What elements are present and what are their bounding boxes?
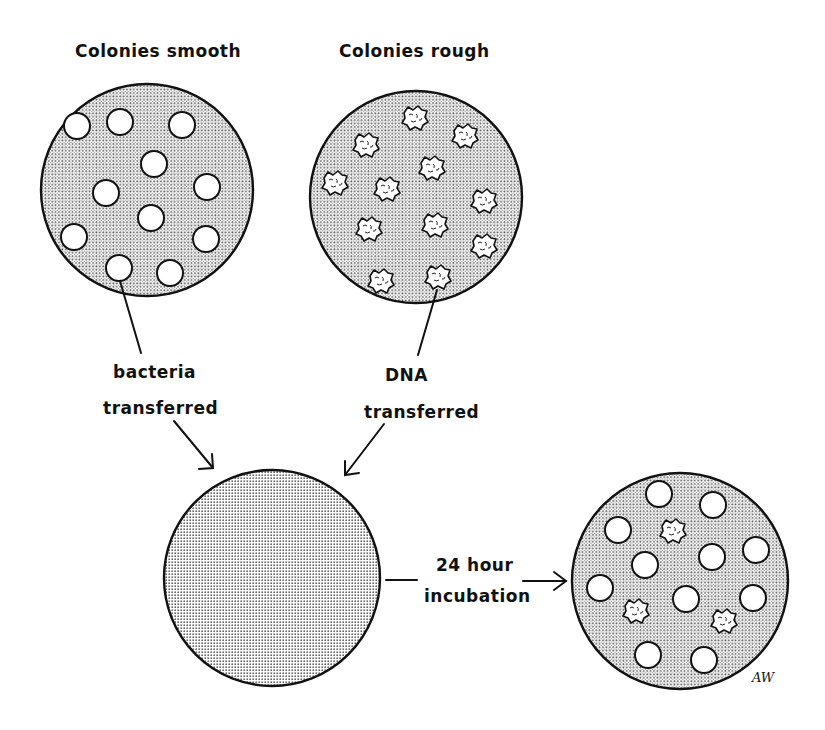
rough-colonies-plate xyxy=(310,91,522,303)
dna-transfer-arrow xyxy=(345,424,384,475)
smooth-plate-title: Colonies smooth xyxy=(75,41,241,61)
bacteria-label-line2: transferred xyxy=(103,398,218,418)
result-plate xyxy=(572,473,788,689)
transformation-experiment-diagram: Colonies smooth Colonies rough xyxy=(0,0,825,730)
bacteria-transfer-arrow xyxy=(174,421,213,469)
mixed-culture-plate xyxy=(164,470,380,686)
dna-label-line1: DNA xyxy=(385,365,428,385)
smooth-colonies-plate xyxy=(41,84,253,296)
incubation-label-line2: incubation xyxy=(424,586,531,606)
bacteria-label-line1: bacteria xyxy=(113,362,196,382)
dna-label-line2: transferred xyxy=(364,402,479,422)
incubation-label-line1: 24 hour xyxy=(436,555,513,575)
rough-plate-title: Colonies rough xyxy=(339,41,490,61)
artist-signature: AW xyxy=(751,670,776,685)
